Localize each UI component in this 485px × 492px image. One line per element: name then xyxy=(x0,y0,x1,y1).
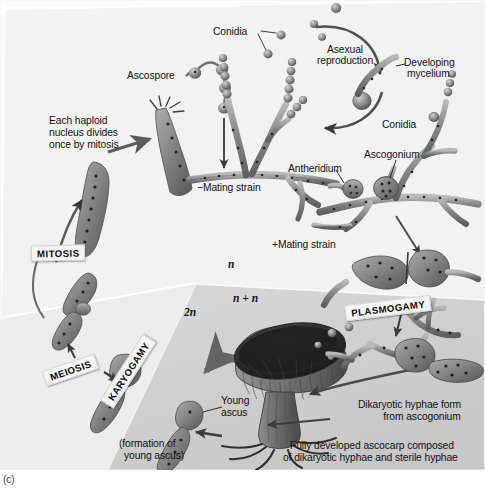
label-conidia-top: Conidia xyxy=(213,26,247,38)
ploidy-n-plus-n: n + n xyxy=(233,292,258,304)
label-formation-line2: young ascus) xyxy=(124,450,184,462)
ploidy-n: n xyxy=(228,258,234,270)
label-ascocarp-line2: of dikaryotic hyphae and sterile hyphae xyxy=(283,452,458,464)
figure-caption: (c) xyxy=(3,474,15,485)
label-developing-mycelium-line2: mycelium xyxy=(407,68,450,80)
label-ascocarp-line1: Fully developed ascocarp composed xyxy=(290,440,454,452)
label-asexual-reproduction-line2: reproduction xyxy=(292,55,398,67)
ploidy-2n: 2n xyxy=(184,306,196,318)
label-ascogonium: Ascogonium xyxy=(364,149,420,161)
label-minus-mating-strain: −Mating strain xyxy=(197,182,261,194)
label-young-ascus-line2: ascus xyxy=(221,407,247,419)
label-asexual-reproduction-line1: Asexual xyxy=(302,44,388,56)
life-cycle-figure: Conidia Asexual reproduction Developing … xyxy=(0,0,485,470)
label-conidia-right: Conidia xyxy=(382,119,416,131)
label-mitosis-note-line2: nucleus divides xyxy=(49,127,118,139)
label-ascospore: Ascospore xyxy=(127,70,175,82)
label-plus-mating-strain: +Mating strain xyxy=(272,239,336,251)
label-mitosis-note-line1: Each haploid xyxy=(49,115,107,127)
label-antheridium: Antheridium xyxy=(288,163,342,175)
label-dikaryotic-line1: Dikaryotic hyphae form xyxy=(358,399,461,411)
label-mitosis-note-line3: once by mitosis xyxy=(49,139,118,151)
label-developing-mycelium-line1: Developing xyxy=(404,57,455,69)
stage-label-mitosis: MITOSIS xyxy=(31,245,86,262)
label-dikaryotic-line2: from ascogonium xyxy=(358,411,485,423)
label-formation-line1: (formation of xyxy=(119,438,176,450)
label-young-ascus-line1: Young xyxy=(221,395,249,407)
